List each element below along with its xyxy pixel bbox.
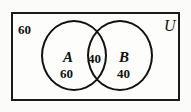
- set-b-label: B: [119, 50, 129, 65]
- outside-sets-count: 60: [18, 23, 31, 36]
- intersection-count: 40: [88, 52, 101, 65]
- set-b-only-count: 40: [117, 67, 130, 80]
- universal-set-label: U: [164, 18, 176, 34]
- venn-diagram-figure: A B 60 40 40 60 U: [0, 0, 191, 112]
- set-a-only-count: 60: [60, 67, 73, 80]
- set-a-label: A: [63, 50, 73, 65]
